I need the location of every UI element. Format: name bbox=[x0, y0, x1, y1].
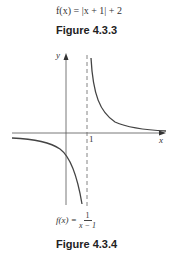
curve-right-branch bbox=[91, 58, 166, 131]
equation-4-3-4: f(x) = 1 x − 1 bbox=[56, 211, 96, 230]
fraction-denominator: x − 1 bbox=[79, 221, 96, 230]
fraction-numerator: 1 bbox=[84, 211, 92, 221]
y-axis-arrow-icon bbox=[64, 53, 69, 60]
curve-left-branch bbox=[12, 138, 82, 204]
fraction: 1 x − 1 bbox=[79, 211, 96, 230]
caption-4-3-4: Figure 4.3.4 bbox=[56, 238, 117, 250]
equation-lhs: f(x) = bbox=[56, 215, 77, 225]
axis-label-y: y bbox=[56, 50, 60, 60]
axis-label-x: x bbox=[159, 135, 163, 145]
tick-label-1: 1 bbox=[89, 134, 94, 144]
